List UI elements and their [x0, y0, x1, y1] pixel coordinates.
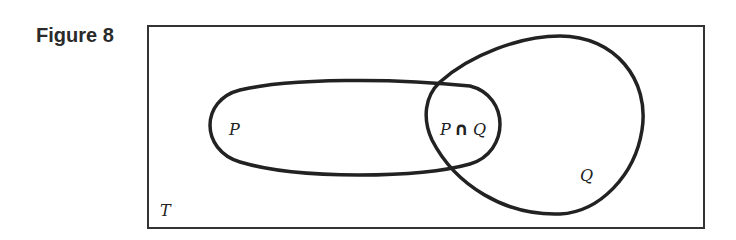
set-p-label: P [228, 120, 240, 139]
intersection-label: P ∩ Q [439, 118, 486, 139]
set-q-label: Q [580, 166, 593, 185]
intersection-operator: ∩ [454, 118, 469, 139]
venn-diagram: P P ∩ Q Q T [0, 0, 736, 240]
universe-label: T [160, 201, 172, 220]
intersection-left: P [439, 120, 451, 139]
intersection-right: Q [473, 120, 486, 139]
